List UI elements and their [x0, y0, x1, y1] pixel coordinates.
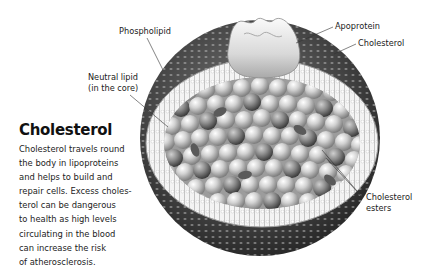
label-neutral-lipid-line1: Neutral lipid — [88, 72, 138, 83]
description-line: the body in lipoproteins — [19, 156, 137, 170]
label-apoprotein: Apoprotein — [335, 21, 380, 32]
description-line: repair cells. Excess choles- — [19, 184, 137, 198]
label-cholesterol: Cholesterol — [358, 38, 404, 49]
description-line: can increase the risk — [19, 241, 137, 255]
description-paragraph: Cholesterol travels round the body in li… — [19, 142, 137, 269]
description-line: circulating in the blood — [19, 227, 137, 241]
description-line: terol can be dangerous — [19, 198, 137, 212]
label-phospholipid: Phospholipid — [119, 26, 171, 37]
label-cholesterol-esters: Cholesterol esters — [366, 192, 412, 214]
description-line: of atherosclerosis. — [19, 255, 137, 269]
description-line: to health as high levels — [19, 212, 137, 226]
section-heading: Cholesterol — [19, 121, 112, 139]
leader-phospholipid — [147, 38, 163, 70]
label-neutral-lipid: Neutral lipid (in the core) — [88, 72, 138, 94]
apoprotein — [228, 18, 300, 78]
description-line: Cholesterol travels round — [19, 142, 137, 156]
label-cholesterol-esters-line1: Cholesterol — [366, 192, 412, 203]
label-cholesterol-esters-line2: esters — [366, 203, 412, 214]
description-line: and helps to build and — [19, 170, 137, 184]
label-neutral-lipid-line2: (in the core) — [88, 83, 138, 94]
